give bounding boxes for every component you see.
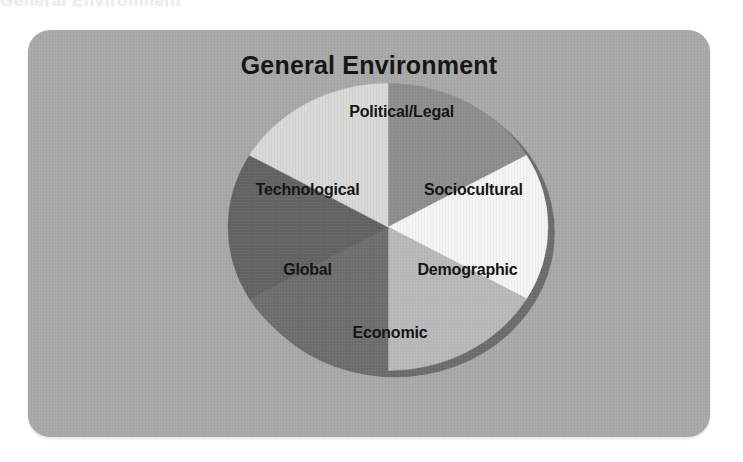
pie-chart-svg: Political/LegalSocioculturalDemographicE… [218, 67, 558, 387]
figure-title: General Environment [28, 51, 710, 80]
pie-slice-label: Political/Legal [349, 103, 454, 120]
figure-canvas: General Environment General Environment … [0, 0, 743, 462]
pie-slice-label: Demographic [417, 261, 517, 278]
pie-slice-label: Technological [256, 181, 360, 198]
pie-slice-label: Global [283, 261, 332, 278]
top-edge-text-artifact: General Environment [0, 0, 420, 9]
pie-slice-label: Sociocultural [424, 181, 523, 198]
pie-chart: Political/LegalSocioculturalDemographicE… [218, 67, 558, 387]
diagram-card: General Environment Political/LegalSocio… [28, 30, 710, 437]
pie-slice-label: Economic [352, 324, 427, 341]
